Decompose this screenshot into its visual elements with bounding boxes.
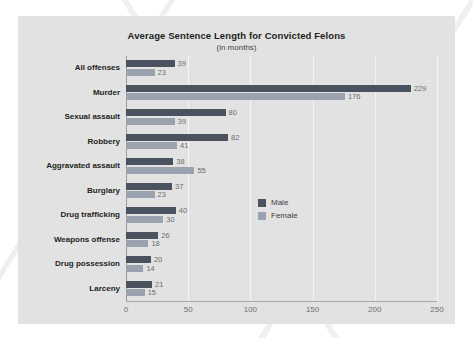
x-tick-50: 50 — [184, 305, 193, 314]
bar-value-label: 37 — [175, 182, 183, 191]
bar-value-label: 23 — [158, 68, 166, 77]
bar-value-label: 38 — [176, 157, 184, 166]
bar-value-label: 18 — [151, 239, 159, 248]
category-label: Burglary — [87, 187, 120, 195]
bar-value-label: 26 — [161, 231, 169, 240]
bar-female[interactable]: 30 — [126, 216, 163, 223]
chart-panel: Average Sentence Length for Convicted Fe… — [18, 16, 455, 324]
category-label: Aggravated assault — [46, 162, 120, 170]
category-label: Drug trafficking — [60, 211, 120, 219]
bar-value-label: 55 — [197, 166, 205, 175]
bar-female[interactable]: 41 — [126, 142, 177, 149]
bar-male[interactable]: 26 — [126, 232, 158, 239]
chart-legend: Male Female — [258, 198, 298, 224]
chart-row: Sexual assault8039 — [126, 105, 437, 130]
bar-value-label: 21 — [155, 280, 163, 289]
chart-row: Aggravated assault3855 — [126, 154, 437, 179]
chart-title: Average Sentence Length for Convicted Fe… — [18, 30, 455, 41]
bar-value-label: 20 — [154, 255, 162, 264]
bar-male[interactable]: 40 — [126, 207, 176, 214]
x-axis-line — [126, 301, 437, 302]
bar-male[interactable]: 82 — [126, 134, 228, 141]
bar-value-label: 15 — [148, 288, 156, 297]
bar-value-label: 39 — [178, 59, 186, 68]
bar-female[interactable]: 176 — [126, 93, 345, 100]
legend-item-male[interactable]: Male — [258, 198, 298, 207]
chart-row: All offenses3923 — [126, 56, 437, 81]
chart-screenshot: Average Sentence Length for Convicted Fe… — [0, 0, 473, 338]
bar-value-label: 229 — [414, 84, 427, 93]
bar-value-label: 40 — [179, 206, 187, 215]
bar-value-label: 80 — [229, 108, 237, 117]
chart-row: Murder229176 — [126, 81, 437, 106]
x-tick-250: 250 — [430, 305, 443, 314]
bar-female[interactable]: 39 — [126, 118, 175, 125]
bar-value-label: 82 — [231, 133, 239, 142]
bar-female[interactable]: 18 — [126, 240, 148, 247]
legend-swatch-male-icon — [258, 199, 266, 207]
bar-female[interactable]: 55 — [126, 167, 194, 174]
bar-value-label: 14 — [146, 264, 154, 273]
bar-value-label: 39 — [178, 117, 186, 126]
bar-female[interactable]: 15 — [126, 289, 145, 296]
category-label: All offenses — [75, 64, 120, 72]
x-tick-100: 100 — [244, 305, 257, 314]
legend-item-female[interactable]: Female — [258, 211, 298, 220]
chart-subtitle: (in months) — [18, 43, 455, 52]
bar-male[interactable]: 37 — [126, 183, 172, 190]
gridline-250 — [437, 56, 438, 301]
bar-female[interactable]: 23 — [126, 69, 155, 76]
category-label: Drug possession — [55, 260, 120, 268]
bar-male[interactable]: 80 — [126, 109, 226, 116]
legend-swatch-female-icon — [258, 212, 266, 220]
category-label: Murder — [93, 89, 120, 97]
bar-value-label: 23 — [158, 190, 166, 199]
bar-male[interactable]: 20 — [126, 256, 151, 263]
bar-male[interactable]: 21 — [126, 281, 152, 288]
category-label: Sexual assault — [64, 113, 120, 121]
bar-female[interactable]: 23 — [126, 191, 155, 198]
chart-row: Drug possession2014 — [126, 252, 437, 277]
x-tick-200: 200 — [368, 305, 381, 314]
bar-male[interactable]: 229 — [126, 85, 411, 92]
x-tick-150: 150 — [306, 305, 319, 314]
category-label: Weapons offense — [54, 236, 120, 244]
bar-male[interactable]: 39 — [126, 60, 175, 67]
category-label: Larceny — [89, 285, 120, 293]
x-tick-0: 0 — [124, 305, 128, 314]
bar-value-label: 176 — [348, 92, 361, 101]
bar-male[interactable]: 38 — [126, 158, 173, 165]
bar-female[interactable]: 14 — [126, 265, 143, 272]
category-label: Robbery — [88, 138, 120, 146]
plot-area: All offenses3923Murder229176Sexual assau… — [126, 56, 437, 301]
bar-value-label: 30 — [166, 215, 174, 224]
legend-label-female: Female — [271, 211, 298, 220]
bar-value-label: 41 — [180, 141, 188, 150]
chart-row: Robbery8241 — [126, 130, 437, 155]
chart-row: Weapons offense2618 — [126, 228, 437, 253]
legend-label-male: Male — [271, 198, 288, 207]
chart-row: Larceny2115 — [126, 277, 437, 302]
